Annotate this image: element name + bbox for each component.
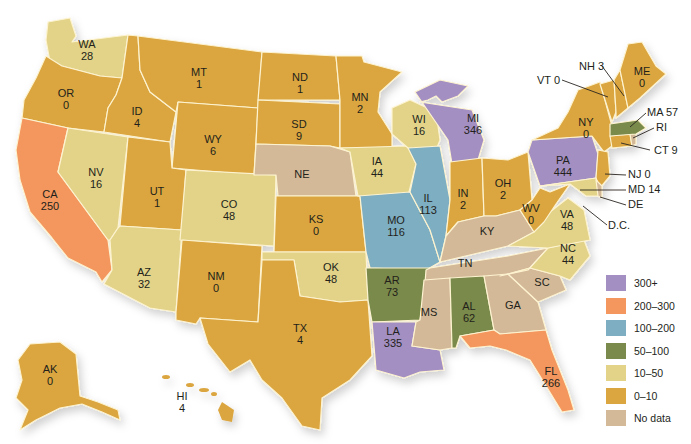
legend-label: 100–200 (634, 322, 675, 334)
svg-text:MS: MS (421, 306, 438, 318)
legend-label: 50–100 (634, 345, 669, 357)
svg-text:SC: SC (534, 276, 549, 288)
legend-swatch (606, 298, 626, 314)
svg-text:VA48: VA48 (560, 208, 575, 232)
legend-item-100-200: 100–200 (606, 317, 675, 340)
svg-text:NC44: NC44 (560, 242, 576, 266)
legend-swatch (606, 388, 626, 404)
legend-item-200-300: 200–300 (606, 295, 675, 318)
legend-swatch (606, 275, 626, 291)
svg-text:LA335: LA335 (384, 325, 402, 349)
svg-text:NE: NE (294, 168, 309, 180)
legend-label: No data (634, 412, 671, 424)
callout-VT: VT 0 (537, 74, 560, 86)
state-MA[interactable] (610, 120, 646, 136)
legend-item-0-10: 0–10 (606, 385, 675, 408)
legend-label: 0–10 (634, 390, 657, 402)
callout-DC: D.C. (608, 219, 630, 231)
svg-text:NV16: NV16 (88, 166, 104, 190)
svg-text:AL62: AL62 (462, 300, 475, 324)
legend-label: 300+ (634, 277, 658, 289)
legend: 300+ 200–300 100–200 50–100 10–50 0–10 N… (606, 272, 675, 430)
legend-item-50-100: 50–100 (606, 340, 675, 363)
svg-text:KY: KY (480, 225, 495, 237)
svg-text:WI16: WI16 (412, 113, 425, 137)
state-AK[interactable] (16, 342, 120, 430)
callout-DE: DE (628, 198, 643, 210)
svg-text:AR73: AR73 (384, 274, 399, 298)
state-HI[interactable] (162, 375, 234, 422)
legend-swatch (606, 410, 626, 426)
legend-item-300-plus: 300+ (606, 272, 675, 295)
legend-swatch (606, 343, 626, 359)
legend-item-10-50: 10–50 (606, 362, 675, 385)
svg-text:PA444: PA444 (554, 154, 572, 178)
legend-swatch (606, 320, 626, 336)
svg-text:IA44: IA44 (371, 155, 383, 179)
callout-MD: MD 14 (628, 183, 660, 195)
callout-NJ: NJ 0 (628, 168, 651, 180)
svg-text:HI4: HI4 (177, 390, 188, 414)
callout-RI: RI (656, 121, 667, 133)
legend-item-no-data: No data (606, 407, 675, 430)
legend-swatch (606, 365, 626, 381)
callout-MA: MA 57 (647, 106, 678, 118)
svg-text:OK48: OK48 (323, 261, 340, 285)
legend-label: 200–300 (634, 300, 675, 312)
callout-CT: CT 9 (654, 144, 678, 156)
us-choropleth-map: WA28 OR0 CA250 ID4 NV16 MT1 WY6 UT1 AZ32… (0, 0, 691, 444)
svg-text:MI346: MI346 (464, 112, 482, 136)
svg-text:TN: TN (458, 257, 473, 269)
svg-text:GA: GA (505, 299, 522, 311)
legend-label: 10–50 (634, 367, 663, 379)
svg-text:CA250: CA250 (41, 188, 59, 212)
svg-text:AZ32: AZ32 (137, 266, 151, 290)
callout-NH: NH 3 (579, 60, 604, 72)
svg-text:MO116: MO116 (387, 214, 405, 238)
